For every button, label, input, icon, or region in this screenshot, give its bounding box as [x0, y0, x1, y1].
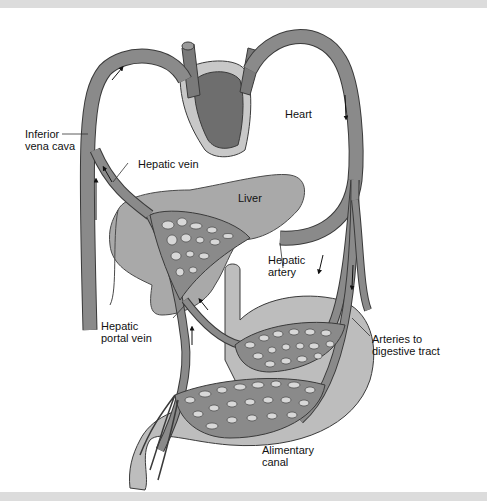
label-hepatic-artery: Hepatic artery — [268, 254, 305, 278]
label-alimentary-canal: Alimentary canal — [262, 444, 314, 468]
label-heart: Heart — [285, 108, 312, 120]
label-hepatic-portal-vein: Hepatic portal vein — [101, 320, 152, 344]
label-inferior-vena-cava: Inferior vena cava — [25, 128, 75, 152]
label-liver: Liver — [238, 192, 262, 204]
label-hepatic-vein: Hepatic vein — [138, 158, 199, 170]
label-arteries-to-digestive-tract: Arteries to digestive tract — [372, 333, 440, 357]
circulation-diagram — [0, 0, 487, 501]
